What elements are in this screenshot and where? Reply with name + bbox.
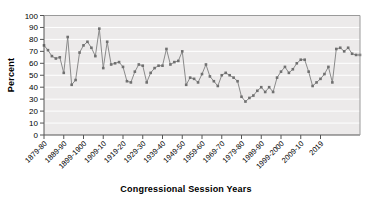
data-point-marker [193,78,196,81]
y-tick-label: 70 [29,47,38,56]
data-point-marker [169,63,172,66]
data-point-marker [134,70,137,73]
data-point-marker [339,46,342,49]
data-point-marker [311,85,314,88]
data-point-marker [157,64,160,67]
y-tick-label: 40 [29,83,38,92]
data-point-marker [205,63,208,66]
data-point-marker [209,75,212,78]
data-point-marker [217,85,220,88]
data-point-marker [145,81,148,84]
data-point-marker [327,66,330,69]
data-point-marker [280,70,283,73]
data-point-marker [248,97,251,100]
data-point-marker [62,72,65,75]
chart-container: Percent 0102030405060708090100 1879-8018… [0,0,372,204]
data-point-marker [201,73,204,76]
data-point-marker [272,91,275,94]
data-point-marker [197,81,200,84]
data-point-marker [161,64,164,67]
data-point-marker [141,64,144,67]
y-tick-label: 0 [34,131,39,140]
data-point-marker [260,86,263,89]
data-point-marker [110,63,113,66]
data-point-marker [122,66,125,69]
data-point-marker [315,81,318,84]
data-point-marker [165,48,168,51]
data-point-marker [240,95,243,98]
data-point-marker [90,46,93,49]
x-axis-title: Congressional Session Years [0,184,372,194]
y-tick-label: 90 [29,23,38,32]
data-point-marker [292,68,295,71]
data-point-marker [94,55,97,58]
line-chart-plot: 0102030405060708090100 1879-801889-90189… [0,0,372,204]
data-point-marker [224,72,227,75]
data-point-marker [347,46,350,49]
data-point-marker [102,67,105,70]
data-point-marker [343,50,346,53]
data-point-marker [213,80,216,83]
data-point-marker [59,56,62,59]
y-tick-label: 30 [29,95,38,104]
data-point-marker [284,66,287,69]
data-point-marker [268,86,271,89]
data-point-marker [264,91,267,94]
data-point-marker [331,81,334,84]
x-axis-ticks-group: 1879-801889-901899-19001909-101919-20192… [23,135,325,171]
data-point-marker [177,60,180,63]
data-point-marker [236,80,239,83]
data-point-marker [351,52,354,55]
data-point-marker [299,58,302,61]
data-point-marker [232,76,235,79]
y-tick-label: 80 [29,35,38,44]
y-axis-ticks-group: 0102030405060708090100 [25,12,44,141]
x-tick-label: 2009-10 [280,139,306,165]
y-tick-label: 60 [29,59,38,68]
data-point-marker [276,76,279,79]
data-point-marker [319,78,322,81]
data-point-marker [220,74,223,77]
data-point-marker [86,40,89,43]
data-point-marker [47,49,50,52]
data-point-marker [288,72,291,75]
y-tick-label: 20 [29,107,38,116]
data-point-marker [185,84,188,87]
data-point-marker [228,74,231,77]
data-point-marker [70,84,73,87]
data-point-marker [244,100,247,103]
data-point-marker [74,79,77,82]
data-point-marker [138,63,141,66]
data-point-marker [106,40,109,43]
data-point-marker [189,76,192,79]
data-point-marker [55,57,58,60]
data-point-marker [335,48,338,51]
y-tick-label: 10 [29,119,38,128]
data-point-marker [252,94,255,97]
data-point-marker [355,54,358,57]
data-point-marker [98,27,101,30]
x-tick-label: 2019 [307,139,325,157]
data-point-marker [82,44,85,47]
data-point-marker [51,55,54,58]
data-point-marker [126,80,129,83]
data-point-marker [296,62,299,65]
data-point-marker [303,58,306,61]
y-tick-label: 100 [25,12,39,21]
data-point-marker [149,72,152,75]
data-point-marker [181,50,184,53]
data-point-marker [307,70,310,73]
data-point-marker [66,36,69,39]
data-point-marker [153,67,156,70]
data-point-marker [78,51,81,54]
data-point-marker [323,73,326,76]
data-point-marker [173,61,176,64]
y-tick-label: 50 [29,71,38,80]
data-point-marker [130,81,133,84]
data-point-marker [118,61,121,64]
data-point-marker [114,62,117,65]
data-point-marker [256,89,259,92]
